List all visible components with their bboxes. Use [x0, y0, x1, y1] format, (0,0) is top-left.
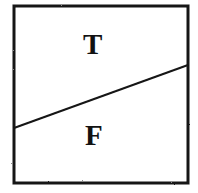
region-label-true: T — [83, 30, 102, 59]
region-label-false: F — [85, 121, 103, 150]
figure-container: T F — [0, 0, 198, 193]
